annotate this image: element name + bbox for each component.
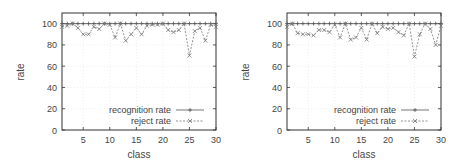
y-tick-label: 0 [52, 126, 57, 136]
x-axis-label: class [128, 149, 151, 160]
legend-label-recognition: recognition rate [109, 105, 171, 115]
legend-label-reject: reject rate [131, 116, 171, 126]
y-axis-label: rate [15, 63, 26, 81]
y-tick-label: 100 [267, 19, 282, 29]
y-tick-label: 100 [42, 19, 57, 29]
legend-samples [176, 108, 204, 123]
legend: recognition rate reject rate [109, 105, 204, 126]
chart-right: 020406080100 51015202530 rate class reco… [225, 0, 456, 166]
y-axis-label: rate [240, 63, 251, 81]
legend: recognition rate reject rate [334, 105, 429, 126]
series-group [60, 22, 218, 58]
x-tick-label: 15 [131, 135, 141, 145]
y-tick-label: 60 [47, 62, 57, 72]
y-tick-label: 20 [47, 104, 57, 114]
y-tick-label: 80 [272, 40, 282, 50]
series-group [285, 22, 443, 59]
x-tick-label: 30 [211, 135, 221, 145]
y-tick-label: 80 [47, 40, 57, 50]
x-tick-label: 25 [409, 135, 419, 145]
series-reject-rate [285, 22, 443, 59]
y-tick-label: 60 [272, 62, 282, 72]
chart-right-svg: 020406080100 51015202530 rate class reco… [225, 0, 456, 166]
x-tick-label: 5 [306, 135, 311, 145]
y-tick-label: 20 [272, 104, 282, 114]
chart-left-svg: 020406080100 51015202530 rate class reco… [0, 0, 231, 166]
figure: 020406080100 51015202530 rate class reco… [0, 0, 462, 166]
chart-left: 020406080100 51015202530 rate class reco… [0, 0, 231, 166]
legend-label-reject: reject rate [356, 116, 396, 126]
x-axis-label: class [353, 149, 376, 160]
y-axis-ticks: 020406080100 [267, 19, 441, 135]
x-tick-label: 15 [356, 135, 366, 145]
series-recognition-rate [285, 22, 443, 26]
legend-label-recognition: recognition rate [334, 105, 396, 115]
x-tick-label: 20 [383, 135, 393, 145]
legend-samples [401, 108, 429, 123]
x-tick-label: 10 [330, 135, 340, 145]
x-tick-label: 25 [184, 135, 194, 145]
y-tick-label: 40 [272, 83, 282, 93]
series-reject-rate [60, 22, 218, 58]
x-tick-label: 20 [158, 135, 168, 145]
series-recognition-rate [60, 22, 218, 26]
y-tick-label: 0 [277, 126, 282, 136]
y-axis-ticks: 020406080100 [42, 19, 216, 135]
x-tick-label: 30 [436, 135, 446, 145]
x-tick-label: 5 [81, 135, 86, 145]
x-tick-label: 10 [105, 135, 115, 145]
y-tick-label: 40 [47, 83, 57, 93]
